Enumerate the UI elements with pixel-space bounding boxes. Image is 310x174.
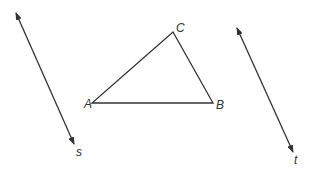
line-s-label: s — [76, 145, 82, 159]
line-t: t — [237, 28, 298, 167]
line-s: s — [16, 13, 82, 159]
line-s-segment — [16, 13, 74, 144]
vertex-label-a: A — [83, 97, 92, 111]
vertex-label-c: C — [176, 21, 185, 35]
line-t-segment — [237, 28, 293, 152]
triangle-outline — [92, 32, 213, 103]
vertex-label-b: B — [216, 98, 224, 112]
triangle-abc: A B C — [83, 21, 224, 112]
line-t-label: t — [294, 153, 298, 167]
geometry-diagram: s t A B C — [0, 0, 310, 174]
